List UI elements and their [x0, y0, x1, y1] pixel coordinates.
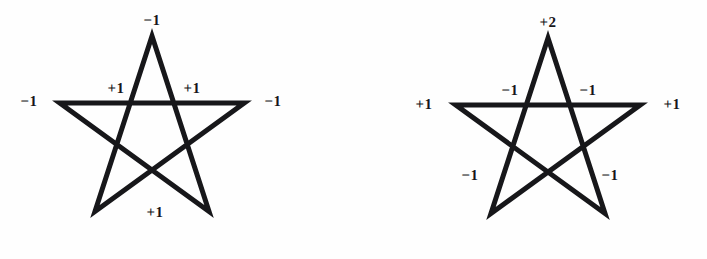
left-star-left-vertex-label: −1	[21, 95, 38, 110]
left-star-right-vertex-label: −1	[265, 95, 282, 110]
right-star-left-vertex-label: +1	[416, 98, 433, 113]
left-star-inner-right-label: +1	[184, 82, 201, 97]
right-pentagram-outline	[456, 38, 641, 213]
right-star-right-vertex-label: +1	[664, 98, 681, 113]
right-star-inner-lower-right-label: −1	[602, 169, 619, 184]
star-paths-group	[60, 36, 641, 213]
right-star-inner-top-right-label: −1	[580, 84, 597, 99]
pentagram-drawing-canvas	[0, 0, 707, 259]
left-star-bottom-inner-label: +1	[147, 206, 164, 221]
right-star-top-vertex-label: +2	[540, 16, 557, 31]
left-star-inner-left-label: +1	[108, 82, 125, 97]
left-star-top-vertex-label: −1	[144, 14, 161, 29]
right-star-inner-lower-left-label: −1	[462, 169, 479, 184]
pentagram-figure: −1−1−1+1+1+1+2+1+1−1−1−1−1	[0, 0, 707, 259]
left-pentagram-outline	[60, 36, 245, 211]
right-star-inner-top-left-label: −1	[502, 84, 519, 99]
